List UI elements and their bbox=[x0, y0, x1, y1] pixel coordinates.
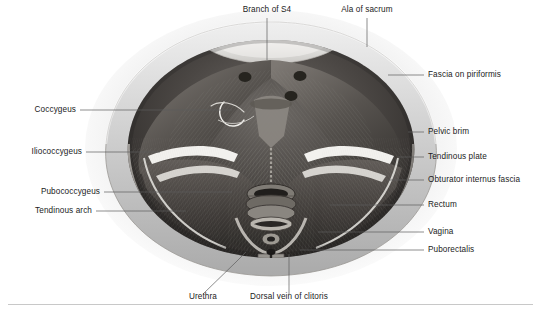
label-dorsal-vein-of-clitoris: Dorsal vein of clitoris bbox=[233, 292, 345, 302]
figure-divider-rule bbox=[8, 304, 533, 305]
label-pubococcygeus-text: Pubococcygeus bbox=[41, 187, 100, 196]
label-tendinous-arch: Tendinous arch bbox=[0, 206, 92, 216]
label-branch-of-s4-text: Branch of S4 bbox=[243, 5, 292, 14]
label-branch-of-s4: Branch of S4 bbox=[207, 5, 327, 15]
label-iliococcygeus: Iliococcygeus bbox=[0, 147, 82, 157]
label-obturator-internus-fascia: Obturator internus fascia bbox=[428, 175, 520, 185]
label-tendinous-plate-text: Tendinous plate bbox=[428, 152, 487, 161]
pelvic-floor-photograph bbox=[78, 8, 464, 296]
label-pelvic-brim-text: Pelvic brim bbox=[428, 127, 469, 136]
label-fascia-on-piriformis-text: Fascia on piriformis bbox=[428, 70, 501, 79]
label-pubococcygeus: Pubococcygeus bbox=[0, 187, 100, 197]
label-coccygeus: Coccygeus bbox=[0, 105, 76, 115]
urethra-structure bbox=[262, 233, 280, 245]
pelvis-illustration-svg bbox=[78, 8, 464, 296]
label-tendinous-plate: Tendinous plate bbox=[428, 152, 487, 162]
label-fascia-on-piriformis: Fascia on piriformis bbox=[428, 70, 501, 80]
label-tendinous-arch-text: Tendinous arch bbox=[35, 206, 92, 215]
label-pelvic-brim: Pelvic brim bbox=[428, 127, 469, 137]
label-iliococcygeus-text: Iliococcygeus bbox=[32, 147, 82, 156]
label-obturator-internus-fascia-text: Obturator internus fascia bbox=[428, 175, 520, 184]
label-coccygeus-text: Coccygeus bbox=[35, 105, 76, 114]
label-urethra-text: Urethra bbox=[189, 292, 217, 301]
label-vagina: Vagina bbox=[428, 227, 454, 237]
sacral-foramen-left bbox=[239, 72, 252, 82]
label-ala-of-sacrum: Ala of sacrum bbox=[310, 5, 424, 15]
vagina-structure bbox=[250, 217, 292, 231]
label-dorsal-vein-of-clitoris-text: Dorsal vein of clitoris bbox=[250, 292, 328, 301]
label-vagina-text: Vagina bbox=[428, 227, 454, 236]
label-rectum: Rectum bbox=[428, 200, 457, 210]
anatomy-figure: Branch of S4 Ala of sacrum Coccygeus Ili… bbox=[0, 0, 541, 321]
label-rectum-text: Rectum bbox=[428, 200, 457, 209]
label-urethra: Urethra bbox=[163, 292, 243, 302]
label-puborectalis-text: Puborectalis bbox=[428, 245, 474, 254]
label-puborectalis: Puborectalis bbox=[428, 245, 474, 255]
label-ala-of-sacrum-text: Ala of sacrum bbox=[341, 5, 392, 14]
rectum-structure bbox=[246, 184, 296, 221]
sacral-foramen-right bbox=[294, 71, 307, 81]
